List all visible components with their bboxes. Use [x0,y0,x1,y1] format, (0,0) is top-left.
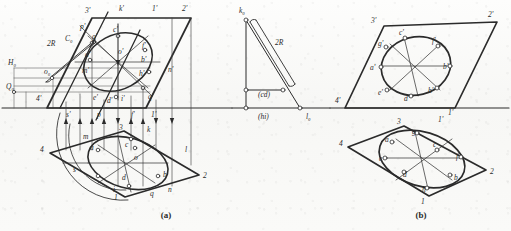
label-p-top-a: p [96,110,101,119]
label-m-top-a: m [83,132,89,141]
arrow-7 [141,118,145,124]
label-l0: l₀ [306,112,311,121]
label-1prime-top-b: 1' [438,115,444,124]
label-a-top-a: a [90,143,94,152]
label-d-top-a: d [122,173,126,182]
point-cd-left [244,88,248,92]
label-bprime-b: b' [443,62,449,71]
label-2prime-b: 2' [488,10,494,19]
label-dprime-b: d' [404,94,410,103]
label-C0: C₀ [65,34,73,43]
mid-radius-1 [250,22,289,86]
label-c-top-b: c [433,140,437,149]
label-qprime-a: q' [148,92,154,101]
label-dprime-a: d' [107,96,113,105]
point-f-top-b [459,155,463,159]
label-1prime-top-a: 1' [151,110,157,119]
label-Q0: Q₀ [6,82,14,91]
label-aprime-a: a' [85,50,91,59]
label-oprime-a: o' [118,47,124,56]
point-dprime-b [409,94,413,98]
label-kprime-a: k' [119,4,124,13]
mid-radius-cap-top [250,19,256,22]
arrow-4 [102,118,106,124]
label-2R-a: 2R [47,39,56,48]
label-k0: k₀ [239,6,245,15]
label-2prime-a: 2' [182,4,188,13]
label-o-top-a: o [134,153,138,162]
point-gprime-b [384,45,388,49]
label-f-top-b: f [456,152,459,161]
drawing-sheet: 2R H₀ Q₀ C₀ o₀ 3' k' 1' 2' 4' p' g' c' f… [0,0,511,231]
point-g-top-a [129,137,133,141]
label-hi: (hi) [258,112,269,121]
arrow-9 [170,118,174,124]
label-b-top-a: b [163,170,167,179]
caption-layer: (a) (b) [161,210,427,220]
mid-radius-cap-bottom [289,84,295,86]
label-c-top-a: c [125,140,129,149]
label-bprime-a: b' [141,55,147,64]
label-2R-mid: 2R [275,38,284,47]
label-i-top-a: i [113,185,115,194]
label-fprime-b: f' [432,36,436,45]
label-hprime-a: h' [139,69,145,78]
label-g-top-b: g [412,127,416,136]
arrow-2 [78,118,82,124]
label-mprime-a: m' [82,66,89,75]
label-d-top-b: d [403,170,407,179]
label-layer: 2R H₀ Q₀ C₀ o₀ 3' k' 1' 2' 4' p' g' c' f… [6,4,494,206]
label-1-top-b: 1 [421,197,425,206]
label-4-top-b: 4 [339,139,343,148]
label-o0: o₀ [44,67,51,76]
tri-hypotenuse [246,20,300,108]
label-l-top-a: l [185,145,187,154]
label-q-top-a: q [150,189,154,198]
label-gprime-b: g' [378,39,384,48]
point-c-top-a [133,146,137,150]
label-1prime-a: 1' [152,4,158,13]
arrow-3 [90,118,94,124]
caption-b: (b) [416,210,427,220]
point-l0 [298,106,302,110]
label-3prime-a: 3' [84,6,91,15]
point-cd-right [281,88,285,92]
point-bprime-a [147,70,151,74]
label-pprime-a: p' [79,22,86,31]
label-aprime-b: a' [370,63,376,72]
label-sprime-a: s' [66,110,71,119]
label-3prime-b: 3' [370,16,377,25]
label-fprime-a: f' [142,41,146,50]
label-3-top-a: 3 [118,123,123,132]
label-h-top-b: h [422,185,426,194]
label-cprime-a: c' [113,25,118,34]
point-b-top-a [156,174,160,178]
label-2-top-a: 2 [203,171,207,180]
label-s-top-a: s [73,165,76,174]
b-top-diag-3 [415,132,428,189]
label-4-top-a: 4 [40,145,44,154]
point-o0 [50,76,53,79]
label-2-top-b: 2 [490,167,494,176]
label-1-top-a: 1 [114,193,118,202]
label-fprime-top-a: f' [131,110,135,119]
label-cprime-b: c' [399,28,404,37]
label-b-top-b: b [454,173,458,182]
figure-svg: 2R H₀ Q₀ C₀ o₀ 3' k' 1' 2' 4' p' g' c' f… [0,0,511,231]
point-e-top-b [383,156,387,160]
point-bprime-b [448,64,452,68]
point-b-top-b [448,173,452,177]
point-hi-left [244,106,248,110]
mid-radius-2 [256,20,295,84]
caption-a: (a) [161,210,172,220]
point-d-top-a [96,174,100,178]
label-1prime-b: 1' [448,108,454,117]
label-iprime-a: i' [121,94,125,103]
label-4prime-b: 4' [335,96,341,105]
label-eprime-b: e' [378,88,383,97]
point-k0 [244,18,248,22]
point-a-top-a [96,148,100,152]
label-n-top-a: n [168,185,172,194]
label-gprime-a: g' [92,32,98,41]
point-fprime-b [436,44,440,48]
